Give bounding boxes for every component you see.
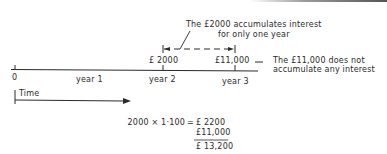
calc-result1: £ 2200 (196, 118, 225, 127)
amount-year3: £11,000 (215, 56, 249, 65)
time-label: Time (19, 89, 39, 98)
calc-result2: £11,000 (196, 128, 230, 137)
one-year-interval-bracket (163, 45, 235, 53)
amount-year2: £ 2000 (149, 56, 178, 65)
calc-equals: = (187, 118, 194, 127)
annotation-top-line2: for only one year (218, 30, 290, 39)
axis-label-zero: 0 (12, 73, 17, 82)
axis-label-year2: year 2 (149, 75, 176, 84)
calc-total: £ 13,200 (196, 142, 233, 151)
calc-expression: 2000 × 1·100 (120, 118, 185, 127)
axis-label-year3: year 3 (222, 77, 249, 86)
annotation-leader-line (180, 31, 190, 49)
timeline-axis (11, 70, 258, 72)
axis-label-year1: year 1 (76, 75, 103, 84)
annotation-right-line1: The £11,000 does not (273, 56, 365, 65)
annotation-right-line2: accumulate any interest (273, 65, 375, 74)
annotation-top-line1: The £2000 accumulates interest (186, 20, 322, 29)
